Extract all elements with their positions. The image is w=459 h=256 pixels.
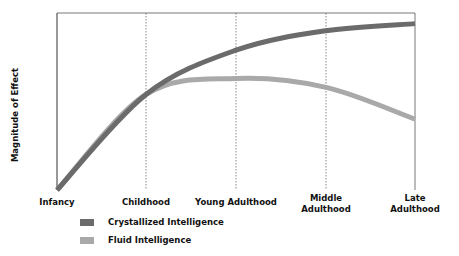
legend-item-crystallized: Crystallized Intelligence: [80, 213, 224, 231]
x-tick-infancy: Infancy: [32, 197, 82, 208]
y-axis-label: Magnitude of Effect: [8, 40, 22, 190]
x-tick-label: Young Adulthood: [191, 197, 281, 208]
x-tick-childhood: Childhood: [116, 197, 176, 208]
x-tick-late-adulthood: Late Adulthood: [385, 193, 445, 215]
y-axis-label-text: Magnitude of Effect: [10, 68, 20, 162]
legend-swatch-crystallized: [80, 219, 94, 226]
x-tick-label-line1: Late: [385, 193, 445, 204]
legend-label: Crystallized Intelligence: [108, 217, 224, 227]
x-tick-middle-adulthood: Middle Adulthood: [296, 193, 356, 215]
x-tick-young-adulthood: Young Adulthood: [191, 197, 281, 208]
x-tick-label: Childhood: [116, 197, 176, 208]
legend-item-fluid: Fluid Intelligence: [80, 231, 224, 249]
legend-swatch-fluid: [80, 237, 94, 244]
x-tick-label-line2: Adulthood: [296, 204, 356, 215]
x-tick-label-line1: Middle: [296, 193, 356, 204]
legend: Crystallized Intelligence Fluid Intellig…: [80, 213, 224, 249]
x-tick-label-line2: Adulthood: [385, 204, 445, 215]
x-tick-label: Infancy: [32, 197, 82, 208]
chart-plot: [0, 0, 459, 256]
legend-label: Fluid Intelligence: [108, 235, 191, 245]
